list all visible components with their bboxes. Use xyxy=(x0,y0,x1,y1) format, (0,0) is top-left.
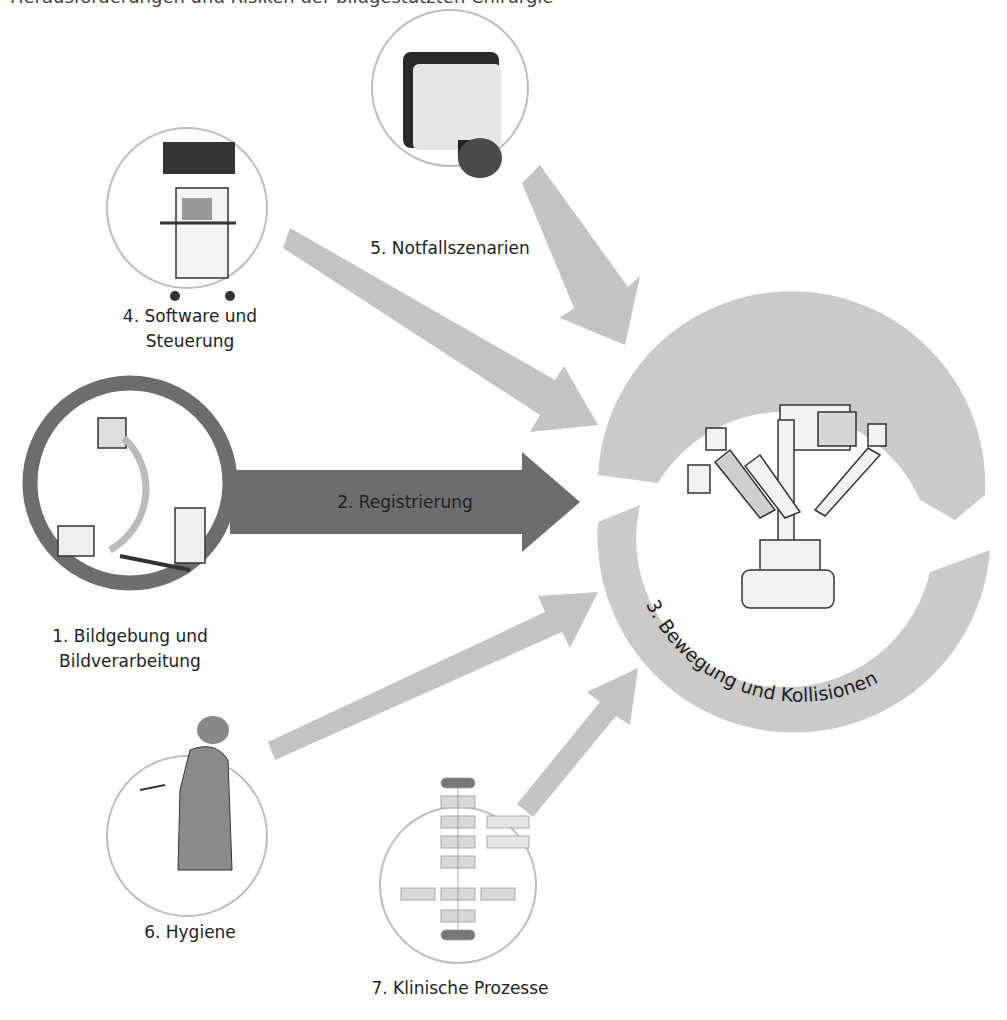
diagram-canvas: 3. Bewegung und Kollisionen 2. Registrie… xyxy=(0,0,1007,1020)
arrow-2-label: 2. Registrierung xyxy=(337,492,473,512)
node-1-label-line2: Bildverarbeitung xyxy=(30,649,230,674)
arrow-7-to-center xyxy=(517,668,638,817)
arrow-6-to-center xyxy=(268,592,598,760)
surgical-robot-icon xyxy=(688,405,886,608)
node-4-label-line2: Steuerung xyxy=(105,329,275,354)
node-6-label: 6. Hygiene xyxy=(130,920,250,945)
node-4-label-line1: 4. Software und xyxy=(105,304,275,329)
node-7-label: 7. Klinische Prozesse xyxy=(350,976,570,1001)
node-1-label-line1: 1. Bildgebung und xyxy=(30,624,230,649)
node-5-label: 5. Notfallszenarien xyxy=(360,236,540,261)
